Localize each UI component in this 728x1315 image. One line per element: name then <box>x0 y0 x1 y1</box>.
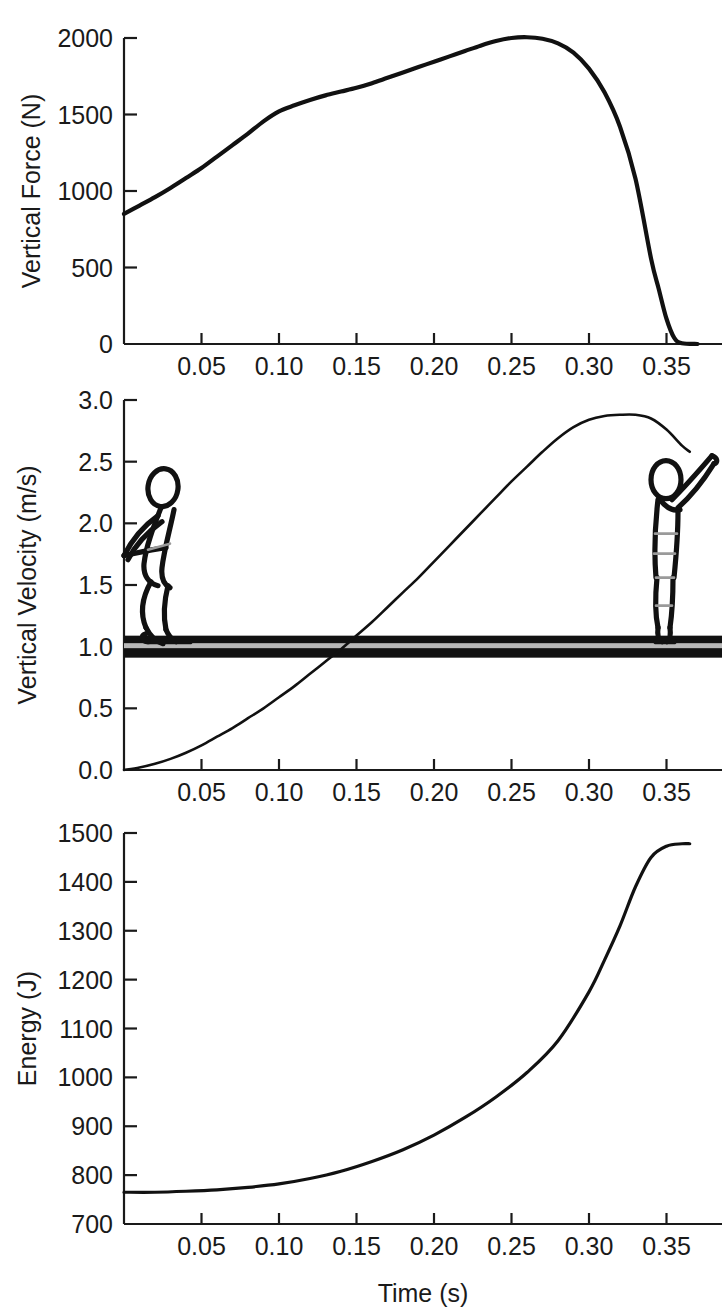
extended-figure-segment-7 <box>656 578 658 628</box>
y-tick-label-force-3: 1500 <box>57 101 113 129</box>
extended-figure-segment-8 <box>670 578 673 628</box>
y-tick-label-energy-4: 1100 <box>59 1015 113 1043</box>
y-axis-title-energy: Energy (J) <box>13 971 41 1086</box>
y-axis-title-velocity: Vertical Velocity (m/s) <box>13 466 41 705</box>
x-tick-label-energy-3: 0.20 <box>410 1232 459 1260</box>
y-tick-label-velocity-1: 0.5 <box>78 694 113 722</box>
y-tick-label-velocity-6: 3.0 <box>78 386 113 414</box>
x-tick-label-velocity-1: 0.10 <box>255 778 304 806</box>
y-tick-label-force-4: 2000 <box>57 24 113 52</box>
panel-velocity: 0.00.51.01.52.02.53.00.050.100.150.200.2… <box>13 386 722 806</box>
y-tick-label-force-0: 0 <box>99 330 113 358</box>
ground-bar-inner <box>124 643 722 648</box>
y-tick-label-velocity-3: 1.5 <box>78 571 113 599</box>
figure-canvas: 05001000150020000.050.100.150.200.250.30… <box>0 0 728 1315</box>
crouched-figure-segment-0 <box>146 467 181 509</box>
x-tick-label-energy-1: 0.10 <box>255 1232 304 1260</box>
y-tick-label-velocity-5: 2.5 <box>78 448 113 476</box>
x-tick-label-velocity-2: 0.15 <box>332 778 381 806</box>
x-tick-label-velocity-6: 0.35 <box>642 778 691 806</box>
x-tick-label-velocity-4: 0.25 <box>487 778 536 806</box>
x-tick-label-force-6: 0.35 <box>642 352 691 380</box>
extended-figure-segment-3 <box>712 456 717 464</box>
x-tick-label-energy-5: 0.30 <box>565 1232 614 1260</box>
x-tick-label-force-1: 0.10 <box>255 352 304 380</box>
x-tick-label-velocity-0: 0.05 <box>177 778 226 806</box>
y-tick-label-force-1: 500 <box>71 254 113 282</box>
panel-force: 05001000150020000.050.100.150.200.250.30… <box>17 24 722 380</box>
x-tick-label-force-5: 0.30 <box>565 352 614 380</box>
y-tick-label-energy-1: 800 <box>71 1161 113 1189</box>
crouched-figure-segment-6 <box>143 582 151 628</box>
y-tick-label-energy-2: 900 <box>71 1112 113 1140</box>
x-tick-label-energy-6: 0.35 <box>642 1232 691 1260</box>
y-tick-label-velocity-4: 2.0 <box>78 509 113 537</box>
panel-energy: 7008009001000110012001300140015000.050.1… <box>13 819 722 1260</box>
extended-figure-segment-6 <box>674 512 678 578</box>
extended-jumper-figure <box>651 456 717 642</box>
x-tick-label-force-4: 0.25 <box>487 352 536 380</box>
ground-line <box>124 636 722 658</box>
y-tick-label-energy-6: 1300 <box>57 917 113 945</box>
x-tick-label-energy-4: 0.25 <box>487 1232 536 1260</box>
x-tick-label-force-3: 0.20 <box>410 352 459 380</box>
curve-vertical-velocity <box>124 414 690 770</box>
crouched-figure-segment-7 <box>164 586 168 630</box>
extended-figure-segment-5 <box>655 500 658 578</box>
x-axis-title: Time (s) <box>378 1279 469 1307</box>
curve-energy <box>124 844 690 1193</box>
x-tick-label-force-0: 0.05 <box>177 352 226 380</box>
y-tick-label-energy-8: 1500 <box>57 819 113 847</box>
x-tick-label-force-2: 0.15 <box>332 352 381 380</box>
y-tick-label-energy-0: 700 <box>71 1210 113 1238</box>
x-tick-label-energy-0: 0.05 <box>177 1232 226 1260</box>
y-axis-title-force: Vertical Force (N) <box>17 94 45 288</box>
y-tick-label-energy-7: 1400 <box>57 868 113 896</box>
x-tick-label-velocity-3: 0.20 <box>410 778 459 806</box>
x-tick-label-velocity-5: 0.30 <box>565 778 614 806</box>
x-tick-label-energy-2: 0.15 <box>332 1232 381 1260</box>
crouched-jumper-figure <box>124 467 190 644</box>
y-tick-label-energy-3: 1000 <box>57 1063 113 1091</box>
y-tick-label-velocity-2: 1.0 <box>78 633 113 661</box>
y-tick-label-energy-5: 1200 <box>57 966 113 994</box>
y-tick-label-velocity-0: 0.0 <box>78 756 113 784</box>
curve-vertical-force <box>124 37 698 344</box>
jump-biomechanics-figure: 05001000150020000.050.100.150.200.250.30… <box>0 0 728 1315</box>
y-tick-label-force-2: 1000 <box>57 177 113 205</box>
